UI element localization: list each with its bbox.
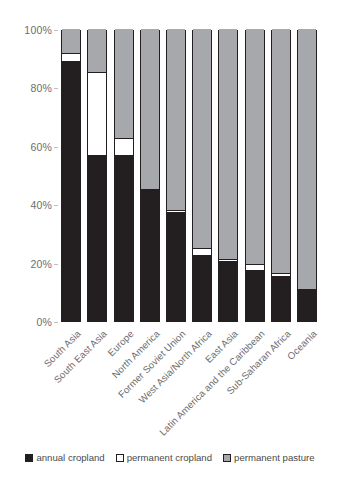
bar-segment-annual-cropland[interactable] bbox=[246, 271, 264, 321]
bar-slot bbox=[114, 30, 134, 322]
x-axis-labels: South AsiaSouth East AsiaEuropeNorth Ame… bbox=[0, 322, 340, 452]
bar-segment-annual-cropland[interactable] bbox=[272, 277, 290, 321]
stacked-bar[interactable] bbox=[218, 30, 238, 322]
legend-item-label: annual cropland bbox=[36, 452, 104, 463]
bar-slot bbox=[297, 30, 317, 322]
y-axis-tick-label: 60% bbox=[30, 141, 52, 153]
legend-item-label: permanent cropland bbox=[127, 452, 212, 463]
chart-legend: annual croplandpermanent croplandpermane… bbox=[0, 452, 340, 463]
white-square-swatch bbox=[116, 454, 124, 462]
bar-slot bbox=[87, 30, 107, 322]
stacked-bar[interactable] bbox=[166, 30, 186, 322]
bar-segment-permanent-cropland[interactable] bbox=[246, 264, 264, 271]
y-axis-tick-label: 100% bbox=[24, 24, 52, 36]
stacked-bar[interactable] bbox=[140, 30, 160, 322]
stacked-bar-chart-figure: 0%20%40%60%80%100% South AsiaSouth East … bbox=[0, 0, 340, 480]
legend-item[interactable]: annual cropland bbox=[25, 452, 104, 463]
bar-segment-permanent-cropland[interactable] bbox=[193, 248, 211, 256]
bar-segment-permanent-cropland[interactable] bbox=[88, 72, 106, 156]
bar-segment-annual-cropland[interactable] bbox=[88, 156, 106, 321]
bar-segment-permanent-cropland[interactable] bbox=[115, 138, 133, 156]
bar-segment-annual-cropland[interactable] bbox=[167, 213, 185, 321]
bar-segment-permanent-pasture[interactable] bbox=[88, 29, 106, 72]
plot-area bbox=[58, 30, 320, 322]
legend-item[interactable]: permanent pasture bbox=[223, 452, 315, 463]
bar-segment-permanent-pasture[interactable] bbox=[246, 29, 264, 264]
bar-segment-permanent-pasture[interactable] bbox=[141, 29, 159, 189]
stacked-bar[interactable] bbox=[245, 30, 265, 322]
stacked-bar[interactable] bbox=[297, 30, 317, 322]
bar-segment-permanent-cropland[interactable] bbox=[62, 53, 80, 62]
y-axis-tick-label: 40% bbox=[30, 199, 52, 211]
bar-segment-permanent-pasture[interactable] bbox=[219, 29, 237, 259]
bar-segment-permanent-cropland[interactable] bbox=[167, 210, 185, 213]
bar-slot bbox=[192, 30, 212, 322]
bar-segment-annual-cropland[interactable] bbox=[219, 262, 237, 321]
bar-slot bbox=[61, 30, 81, 322]
bar-segment-permanent-pasture[interactable] bbox=[115, 29, 133, 138]
stacked-bar[interactable] bbox=[114, 30, 134, 322]
bar-segment-annual-cropland[interactable] bbox=[193, 256, 211, 321]
black-square-swatch bbox=[25, 454, 33, 462]
stacked-bar[interactable] bbox=[87, 30, 107, 322]
legend-item[interactable]: permanent cropland bbox=[116, 452, 212, 463]
bar-segment-annual-cropland[interactable] bbox=[62, 62, 80, 321]
bar-segment-permanent-cropland[interactable] bbox=[272, 273, 290, 277]
bar-slot bbox=[271, 30, 291, 322]
bar-segment-annual-cropland[interactable] bbox=[141, 189, 159, 321]
stacked-bar[interactable] bbox=[271, 30, 291, 322]
bar-segment-permanent-pasture[interactable] bbox=[272, 29, 290, 273]
bar-slot bbox=[140, 30, 160, 322]
bar-segment-permanent-pasture[interactable] bbox=[298, 29, 316, 289]
gray-square-swatch bbox=[223, 454, 231, 462]
bar-segment-permanent-cropland[interactable] bbox=[219, 259, 237, 262]
bar-segment-permanent-pasture[interactable] bbox=[167, 29, 185, 210]
bar-slot bbox=[166, 30, 186, 322]
bar-slot bbox=[245, 30, 265, 322]
bar-segment-permanent-pasture[interactable] bbox=[193, 29, 211, 248]
y-axis-tick-label: 20% bbox=[30, 258, 52, 270]
bar-slot bbox=[218, 30, 238, 322]
stacked-bar[interactable] bbox=[192, 30, 212, 322]
legend-item-label: permanent pasture bbox=[234, 452, 315, 463]
bar-segment-annual-cropland[interactable] bbox=[115, 156, 133, 321]
y-axis-tick-label: 80% bbox=[30, 82, 52, 94]
bar-segment-permanent-pasture[interactable] bbox=[62, 29, 80, 53]
stacked-bar[interactable] bbox=[61, 30, 81, 322]
bar-segment-annual-cropland[interactable] bbox=[298, 289, 316, 321]
